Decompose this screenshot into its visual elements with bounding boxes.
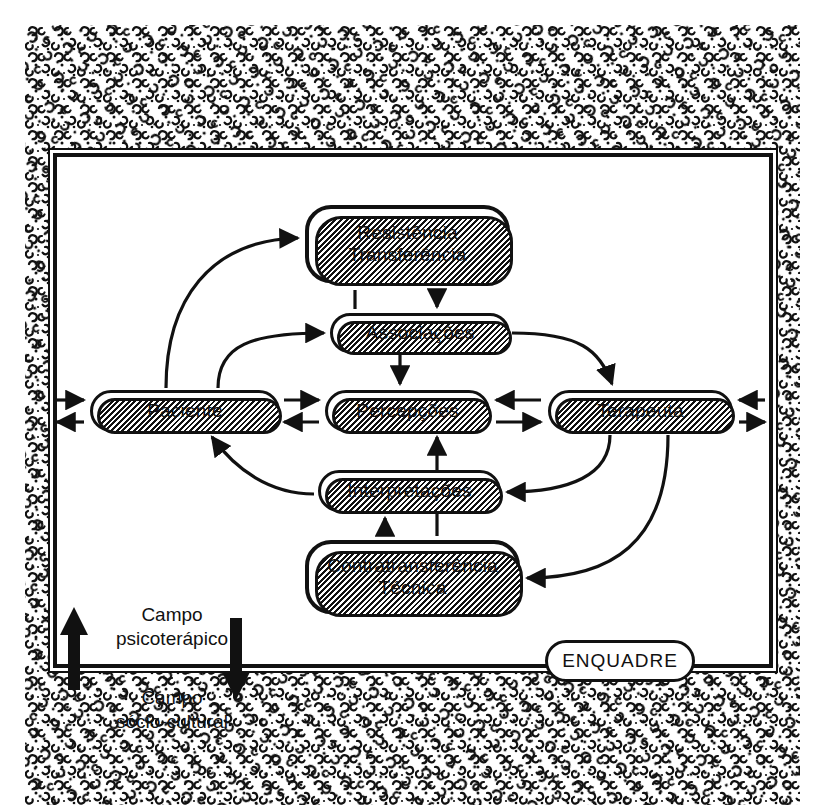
- node-label-line1: Resistência: [357, 222, 457, 243]
- node-label-line2: Transferência: [348, 244, 466, 265]
- caption-campo-psicoterapico: Campo psicoterápico: [92, 603, 252, 651]
- node-label: Paciente: [147, 400, 223, 422]
- caption-line2: sócio-cultural: [116, 711, 228, 732]
- node-enquadre[interactable]: ENQUADRE: [545, 640, 695, 682]
- node-label: Contratransferência Técnica: [327, 555, 498, 599]
- node-label: Resistência Transferência: [348, 222, 466, 266]
- node-paciente[interactable]: Paciente: [90, 390, 280, 432]
- node-interpretacoes[interactable]: Interpretações: [318, 470, 501, 512]
- node-label: Associações: [366, 322, 475, 344]
- node-terapeuta[interactable]: Terapeuta: [548, 390, 733, 432]
- diagram-canvas: Resistência Transferência Associações Pa…: [0, 0, 838, 805]
- node-label: ENQUADRE: [562, 650, 678, 672]
- node-label: Interpretações: [347, 480, 471, 502]
- caption-campo-sociocultural: Campo sócio-cultural: [86, 686, 258, 734]
- node-label: Terapeuta: [597, 400, 683, 422]
- caption-line2: psicoterápico: [116, 628, 228, 649]
- caption-line1: Campo: [141, 604, 202, 625]
- node-label: Percepções: [356, 400, 458, 422]
- node-percepcoes[interactable]: Percepções: [325, 390, 490, 432]
- node-associacoes[interactable]: Associações: [330, 313, 510, 353]
- node-label-line1: Contratransferência: [327, 555, 498, 576]
- caption-line1: Campo: [141, 687, 202, 708]
- node-resistencia-transferencia[interactable]: Resistência Transferência: [305, 205, 510, 283]
- node-label-line2: Técnica: [379, 577, 447, 598]
- node-contratransferencia-tecnica[interactable]: Contratransferência Técnica: [305, 540, 520, 614]
